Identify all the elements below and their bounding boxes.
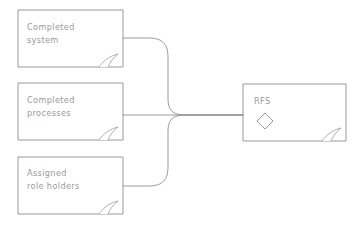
connector-roles-to-rfs xyxy=(123,115,243,186)
node-completed-processes[interactable] xyxy=(18,83,123,140)
node-rfs[interactable] xyxy=(243,84,346,141)
diagram-drawing xyxy=(0,0,363,226)
diagram-canvas: Completed system Completed processes Ass… xyxy=(0,0,363,226)
connector-system-to-rfs xyxy=(123,38,243,115)
node-assigned-role-holders[interactable] xyxy=(18,157,123,214)
node-completed-system[interactable] xyxy=(18,10,123,67)
